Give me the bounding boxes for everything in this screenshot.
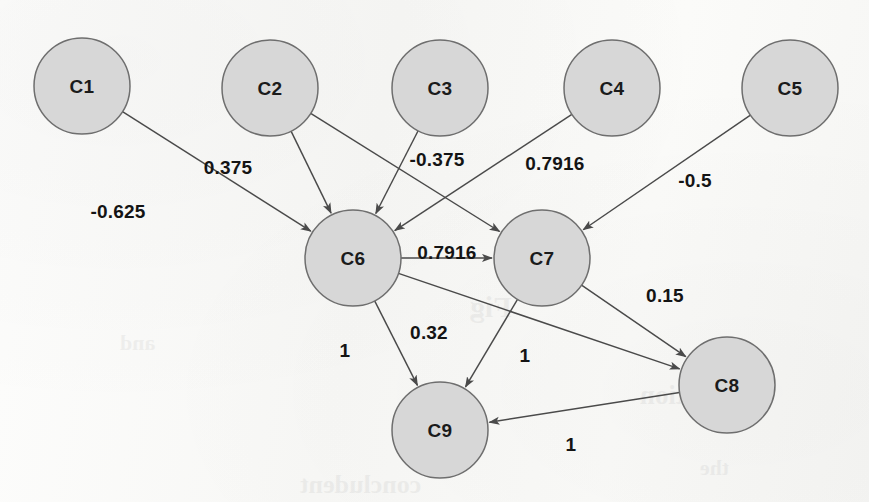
edge-c6-to-c9 — [375, 301, 418, 386]
edge-weight-label: 0.32 — [410, 322, 448, 343]
edge-weight-label: -0.5 — [678, 170, 712, 191]
node-c5[interactable]: C5 — [742, 40, 838, 136]
node-c8[interactable]: C8 — [679, 337, 775, 433]
node-c4[interactable]: C4 — [564, 40, 660, 136]
edge-c3-to-c6 — [376, 131, 418, 214]
node-label: C8 — [715, 375, 740, 396]
figure-canvas: Figilustrationconcludentandthe -0.6250.3… — [0, 0, 869, 502]
node-c1[interactable]: C1 — [34, 38, 130, 134]
edge-weight-label: 1 — [520, 345, 531, 366]
edge-weight-label: 1 — [340, 340, 351, 361]
edge-weight-label: -0.375 — [409, 149, 464, 170]
edge-weight-label: 0.15 — [646, 285, 684, 306]
node-c6[interactable]: C6 — [305, 210, 401, 306]
edge-weight-label: 1 — [566, 434, 577, 455]
node-label: C3 — [428, 78, 453, 99]
edge-weight-label: 0.7916 — [525, 153, 584, 174]
edge-weight-label: 0.375 — [204, 157, 253, 178]
node-label: C9 — [428, 420, 453, 441]
edge-c7-to-c9 — [466, 299, 518, 387]
node-label: C1 — [70, 76, 95, 97]
node-c2[interactable]: C2 — [222, 40, 318, 136]
node-label: C2 — [258, 78, 283, 99]
directed-weighted-graph: -0.6250.375-0.3750.7916-0.50.79160.32110… — [0, 0, 869, 502]
edge-c8-to-c9 — [489, 392, 679, 422]
node-label: C7 — [530, 248, 555, 269]
node-c9[interactable]: C9 — [392, 382, 488, 478]
node-c7[interactable]: C7 — [494, 210, 590, 306]
node-label: C4 — [600, 78, 625, 99]
node-label: C5 — [778, 78, 803, 99]
edge-c2-to-c6 — [291, 131, 331, 213]
node-c3[interactable]: C3 — [392, 40, 488, 136]
edge-weight-label: -0.625 — [90, 201, 145, 222]
node-label: C6 — [341, 248, 366, 269]
edge-weight-label: 0.7916 — [417, 242, 476, 263]
